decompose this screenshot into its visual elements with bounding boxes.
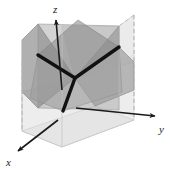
three-planes-diagram: z y x: [0, 0, 170, 169]
axis-label-z: z: [52, 3, 58, 15]
axis-label-x: x: [5, 156, 11, 168]
figure-container: z y x: [0, 0, 170, 169]
axis-label-y: y: [158, 123, 164, 135]
